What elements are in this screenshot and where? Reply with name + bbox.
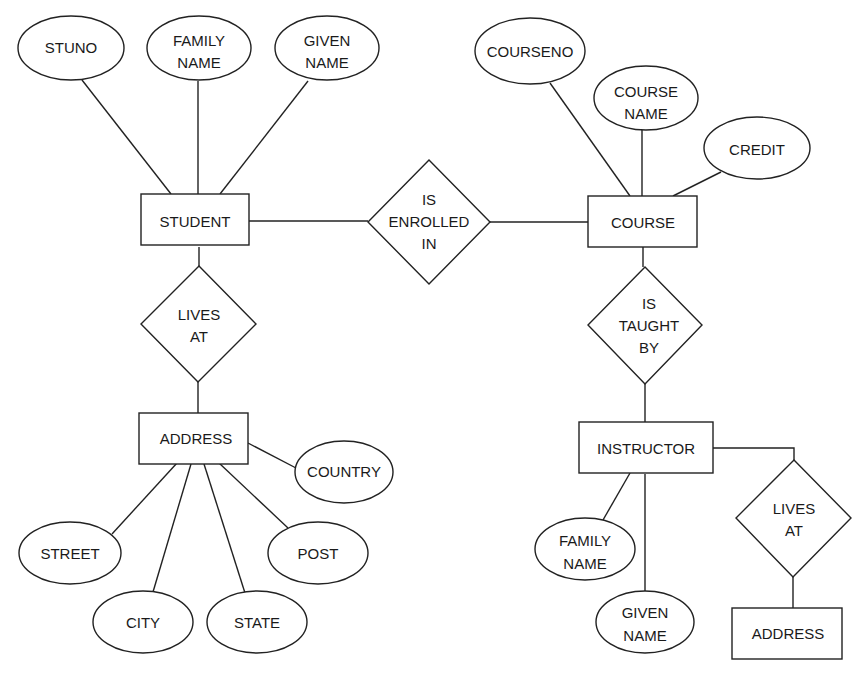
attribute-stuno[interactable]: STUNO	[18, 16, 124, 80]
attribute-label: GIVEN	[304, 32, 351, 49]
entity-label: ADDRESS	[160, 430, 233, 447]
attribute-label: COURSE	[614, 83, 678, 100]
entity-student[interactable]: STUDENT	[141, 194, 249, 245]
attribute-label: NAME	[563, 555, 606, 572]
relationship-label: IS	[422, 191, 436, 208]
attribute-instructor-given-name[interactable]: GIVEN NAME	[596, 591, 694, 653]
attribute-label: STUNO	[45, 39, 98, 56]
attribute-country[interactable]: COUNTRY	[295, 441, 393, 503]
entity-label: STUDENT	[160, 213, 231, 230]
attribute-label: POST	[298, 545, 339, 562]
relationship-lives-at-instructor[interactable]: LIVES AT	[736, 460, 851, 577]
attribute-credit[interactable]: CREDIT	[704, 117, 810, 179]
attribute-course-name[interactable]: COURSE NAME	[594, 66, 698, 130]
relationship-label: IS	[642, 295, 656, 312]
attribute-state[interactable]: STATE	[207, 591, 307, 653]
attribute-student-family-name[interactable]: FAMILY NAME	[147, 16, 251, 80]
entity-label: ADDRESS	[752, 625, 825, 642]
relationship-is-taught-by[interactable]: IS TAUGHT BY	[588, 267, 702, 384]
entity-address-student[interactable]: ADDRESS	[139, 413, 248, 464]
attribute-student-given-name[interactable]: GIVEN NAME	[275, 16, 379, 80]
relationship-is-enrolled-in[interactable]: IS ENROLLED IN	[368, 160, 490, 284]
relationship-label: LIVES	[773, 500, 816, 517]
attribute-label: FAMILY	[173, 32, 225, 49]
attribute-label: CITY	[126, 614, 160, 631]
attribute-label: FAMILY	[559, 532, 611, 549]
relationship-label: ENROLLED	[389, 213, 470, 230]
entity-label: COURSE	[611, 214, 675, 231]
attribute-label: NAME	[177, 54, 220, 71]
attribute-label: COURSENO	[487, 43, 574, 60]
relationship-label: TAUGHT	[619, 317, 680, 334]
attribute-label: NAME	[623, 627, 666, 644]
attribute-label: NAME	[624, 105, 667, 122]
relationship-lives-at-student[interactable]: LIVES AT	[141, 266, 256, 382]
entity-course[interactable]: COURSE	[588, 196, 697, 247]
attribute-label: GIVEN	[622, 604, 669, 621]
relationship-label: IN	[422, 235, 437, 252]
relationship-label: LIVES	[178, 306, 221, 323]
relationship-label: AT	[190, 328, 208, 345]
attribute-label: STREET	[40, 545, 99, 562]
attribute-city[interactable]: CITY	[93, 591, 193, 653]
attribute-courseno[interactable]: COURSENO	[475, 18, 585, 84]
relationship-label: AT	[785, 522, 803, 539]
attribute-label: NAME	[305, 54, 348, 71]
attribute-label: CREDIT	[729, 141, 785, 158]
entity-instructor[interactable]: INSTRUCTOR	[579, 422, 713, 473]
attribute-instructor-family-name[interactable]: FAMILY NAME	[535, 518, 635, 580]
attribute-street[interactable]: STREET	[19, 522, 121, 584]
entity-label: INSTRUCTOR	[597, 440, 695, 457]
er-diagram: STUDENT COURSE ADDRESS INSTRUCTOR ADDRES…	[0, 0, 861, 676]
attribute-post[interactable]: POST	[268, 522, 368, 584]
relationship-label: BY	[639, 339, 659, 356]
attribute-label: COUNTRY	[307, 463, 381, 480]
attribute-label: STATE	[234, 614, 280, 631]
entity-address-instructor[interactable]: ADDRESS	[732, 608, 842, 659]
